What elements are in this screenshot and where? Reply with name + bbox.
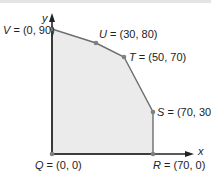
vertex-u-label: U = (30, 80) (99, 28, 157, 40)
vertex-r-dot (151, 152, 156, 157)
x-axis-arrow-icon (185, 151, 194, 157)
vertex-r-label: R = (70, 0) (153, 159, 205, 171)
feasible-region (52, 29, 153, 154)
y-axis-label: y (41, 12, 49, 24)
vertex-t-label: T = (50, 70) (129, 51, 186, 63)
vertex-s-dot (151, 110, 156, 115)
y-axis-arrow-icon (49, 13, 55, 22)
vertex-q-dot (50, 152, 55, 157)
x-axis-label: x (197, 145, 204, 157)
vertex-u-dot (94, 41, 99, 46)
vertex-v-label: V = (0, 90) (3, 24, 55, 36)
vertex-t-dot (122, 55, 127, 60)
feasible-region-diagram: y x V = (0, 90) U = (30, 80) T = (50, 70… (0, 0, 211, 178)
vertex-q-label: Q = (0, 0) (35, 159, 82, 171)
vertex-s-label: S = (70, 30) (157, 106, 211, 118)
